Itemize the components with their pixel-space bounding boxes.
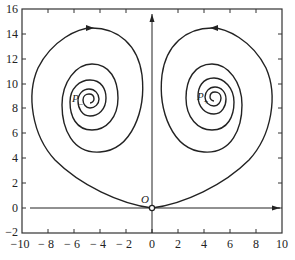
y-tick-label: 16 [6,2,18,16]
x-tick-label: 6 [227,237,233,251]
x-tick-label: 8 [253,237,259,251]
left-spiral-trajectory [32,28,152,208]
y-tick-label: 4 [12,151,18,165]
y-tick-label: 14 [6,27,18,41]
y-tick-label: 10 [6,77,18,91]
p-minus-label: P− [71,92,84,109]
x-axis-arrow-icon [272,206,280,211]
y-axis-arrow-icon [150,14,155,22]
y-tick-label: 0 [12,201,18,215]
p-minus-subscript: − [79,100,84,109]
x-tick-label: 10 [276,237,288,251]
y-tick-label: 12 [6,52,18,66]
y-tick-labels: −2 0 2 4 6 8 10 12 14 16 [5,2,18,239]
origin-label: O [141,193,149,205]
x-tick-labels: −10 − 8 − 6 − 4 − 2 0 2 4 6 8 10 [11,237,288,251]
origin-marker [149,205,154,210]
left-flow-arrow-icon [86,25,94,31]
p-plus-subscript: + [204,97,209,106]
y-tick-label: 6 [12,126,18,140]
x-tick-label: 4 [201,237,207,251]
y-tick-label: 2 [12,176,18,190]
y-tick-label: −2 [5,225,18,239]
y-tick-label: 8 [12,101,18,115]
x-tick-label: − 4 [90,237,106,251]
x-tick-label: −10 [11,237,30,251]
x-tick-label: − 6 [64,237,80,251]
right-flow-arrow-icon [210,25,218,31]
phase-portrait: −10 − 8 − 6 − 4 − 2 0 2 4 6 8 10 −2 0 2 … [0,0,295,260]
x-tick-label: 2 [175,237,181,251]
right-spiral-trajectory [152,28,272,208]
x-tick-label: 0 [149,237,155,251]
x-tick-label: − 2 [116,237,132,251]
x-tick-label: − 8 [38,237,54,251]
